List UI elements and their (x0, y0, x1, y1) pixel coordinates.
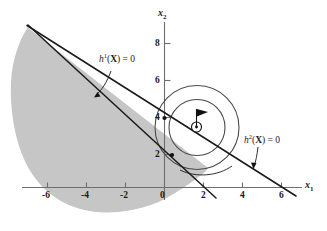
curve-label-h2-eq: = 0 (265, 135, 280, 145)
x-tick-label-4: 4 (240, 191, 245, 201)
x-tick-label-6: 6 (279, 191, 284, 201)
x-tick-label--2: -2 (120, 191, 128, 201)
curve-label-h2: h2(X) = 0 (244, 134, 280, 146)
x-tick-label--6: -6 (42, 191, 50, 201)
boundary-point-lower (170, 153, 174, 157)
flag-banner-icon (197, 109, 208, 117)
x-axis-title: x1 (305, 180, 314, 193)
figure-canvas: -6 -4 -2 0 2 4 6 2 4 6 8 x1 x2 h1(X) = 0… (0, 0, 327, 231)
y-tick-label-6: 6 (155, 76, 160, 86)
x-tick-label--4: -4 (81, 191, 89, 201)
curve-label-h1-eq: = 0 (120, 54, 135, 64)
y-tick-label-2: 2 (155, 150, 160, 160)
y-axis-title-sub: 2 (163, 13, 167, 21)
boundary-point-upper (162, 116, 166, 120)
y-tick-label-4: 4 (155, 113, 160, 123)
y-axis-title: x2 (158, 8, 167, 21)
curve-label-h1: h1(X) = 0 (99, 53, 135, 65)
x-tick-label-0: 0 (160, 191, 165, 201)
x-axis-title-sub: 1 (310, 185, 314, 193)
y-tick-label-8: 8 (155, 39, 160, 49)
x-tick-label-2: 2 (201, 191, 206, 201)
